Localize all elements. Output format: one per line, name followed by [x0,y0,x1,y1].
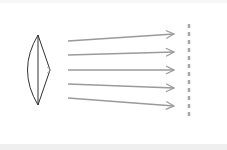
light-rays [68,34,174,106]
ray-arrow-2 [68,52,174,55]
lens-icon [28,35,52,105]
lens-upper-facet [38,35,50,70]
ray-arrow-4 [68,84,174,88]
optics-diagram [0,0,227,150]
lens-lower-facet [38,70,50,105]
diagram-canvas [0,0,227,150]
ray-arrow-5 [68,98,174,106]
ray-arrow-1 [68,34,174,41]
lens-curved-edge [28,35,39,105]
bottom-border [0,144,227,150]
